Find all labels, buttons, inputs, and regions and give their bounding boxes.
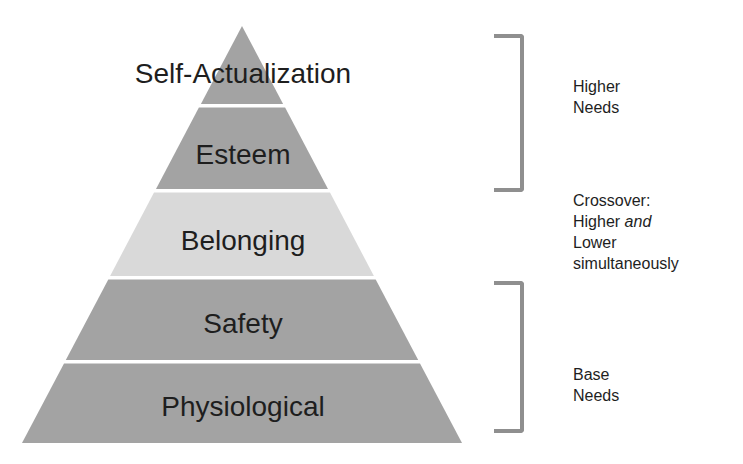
base-needs-line2: Needs: [573, 385, 619, 406]
base-needs-note: Base Needs: [573, 364, 619, 406]
base-needs-bracket: [494, 281, 524, 433]
label-safety: Safety: [203, 310, 282, 338]
crossover-line1: Crossover:: [573, 190, 679, 211]
label-esteem: Esteem: [196, 141, 291, 169]
higher-needs-line1: Higher: [573, 76, 620, 97]
higher-needs-line2: Needs: [573, 97, 620, 118]
crossover-line3: Lower: [573, 232, 679, 253]
crossover-line2-prefix: Higher: [573, 213, 625, 230]
crossover-line4: simultaneously: [573, 253, 679, 274]
label-self-actualization: Self-Actualization: [135, 60, 351, 88]
crossover-line2: Higher and: [573, 211, 679, 232]
crossover-emphasis: and: [625, 213, 652, 230]
crossover-note: Crossover: Higher and Lower simultaneous…: [573, 190, 679, 274]
base-needs-line1: Base: [573, 364, 619, 385]
higher-needs-bracket: [494, 34, 524, 192]
higher-needs-note: Higher Needs: [573, 76, 620, 118]
label-belonging: Belonging: [181, 227, 306, 255]
label-physiological: Physiological: [161, 393, 324, 421]
